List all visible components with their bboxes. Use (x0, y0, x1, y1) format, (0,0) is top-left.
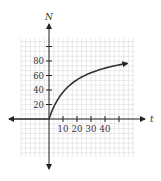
chart-canvas: 1020304020406080 N t (0, 0, 161, 181)
y-axis-label: N (44, 12, 54, 22)
x-tick-label: 40 (100, 124, 111, 134)
y-tick-label: 20 (33, 100, 44, 110)
x-tick-label: 10 (58, 124, 69, 134)
x-tick-label: 30 (86, 124, 97, 134)
x-tick-label: 20 (72, 124, 83, 134)
y-tick-label: 60 (33, 71, 44, 81)
ticks (46, 47, 119, 123)
y-tick-label: 80 (33, 56, 44, 66)
curve-n-of-t (49, 63, 127, 119)
y-tick-label: 40 (33, 85, 44, 95)
x-axis-label: t (150, 114, 154, 124)
